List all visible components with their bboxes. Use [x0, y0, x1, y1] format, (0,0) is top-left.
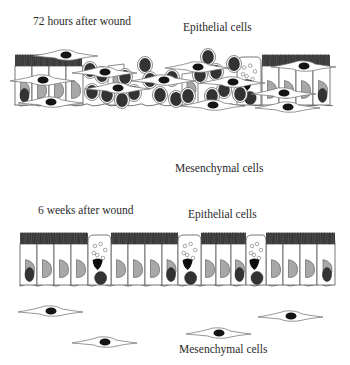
secretory-vesicle	[245, 74, 249, 78]
basal-dark-nucleus	[25, 268, 34, 282]
basal-dark-nucleus	[318, 88, 327, 102]
mesenchymal-nucleus	[61, 51, 72, 58]
columnar-cell	[300, 244, 317, 285]
proliferating-cell	[85, 84, 100, 101]
mesenchymal-nucleus	[208, 101, 219, 108]
cilia	[20, 232, 335, 244]
columnar-cell	[313, 66, 330, 105]
cilia-band	[266, 232, 335, 244]
basal-dark-nucleus	[95, 272, 107, 285]
mesenchymal-nucleus	[100, 68, 111, 75]
columnar-cells	[20, 244, 335, 285]
mesenchymal-cell	[186, 328, 251, 338]
columnar-cell	[128, 244, 145, 285]
secretory-vesicle	[99, 242, 103, 246]
basal-dark-nucleus	[20, 88, 29, 102]
secretory-vesicle	[241, 72, 245, 76]
secretory-vesicle	[248, 64, 252, 68]
proliferating-cell	[227, 56, 242, 73]
diagram-artwork	[0, 0, 350, 365]
panel-72h-epithelial-label: Epithelial cells	[183, 22, 252, 34]
panel-6w-epithelial-label: Epithelial cells	[188, 209, 257, 221]
basal-dark-nucleus	[251, 272, 263, 285]
mesenchymal-nucleus	[38, 76, 49, 83]
secretory-vesicle	[103, 248, 107, 252]
secretory-vesicle	[182, 251, 186, 255]
secretory-vesicle	[185, 253, 189, 257]
proliferating-cell	[138, 57, 153, 74]
basal-dark-nucleus	[323, 268, 332, 282]
mesenchymal-nucleus	[100, 338, 111, 345]
dark-nucleus	[170, 92, 182, 106]
mesenchymal-nucleus	[113, 84, 124, 91]
dark-nucleus	[228, 57, 240, 71]
proliferating-cell	[181, 88, 196, 105]
secretory-vesicle	[101, 256, 105, 260]
panel-72h-time-label: 72 hours after wound	[33, 16, 131, 28]
secretory-vesicle	[183, 244, 187, 248]
mesenchymal-nucleus	[228, 78, 239, 85]
columnar-cell	[145, 244, 162, 285]
panel-6w-time-label: 6 weeks after wound	[38, 205, 133, 217]
columnar-cell	[266, 244, 283, 285]
mesenchymal-cells	[18, 306, 323, 347]
secretory-vesicle	[250, 244, 254, 248]
secretory-vesicle	[193, 248, 197, 252]
dark-nucleus	[116, 93, 128, 107]
panel-6w	[18, 232, 335, 347]
mesenchymal-nucleus	[193, 63, 204, 70]
proliferating-cell	[115, 92, 130, 109]
cilia-band	[201, 232, 246, 244]
secretory-vesicle	[189, 242, 193, 246]
columnar-cell	[37, 244, 54, 285]
columnar-cell	[54, 244, 71, 285]
columnar-cell	[15, 66, 32, 105]
mesenchymal-nucleus	[214, 329, 225, 336]
columnar-cell	[283, 244, 300, 285]
columnar-cell	[231, 244, 246, 285]
secretory-vesicle	[259, 248, 263, 252]
panel-72h-mesenchymal-label: Mesenchymal cells	[175, 163, 263, 175]
secretory-vesicle	[191, 256, 195, 260]
columnar-cell	[296, 66, 313, 105]
columnar-cell	[162, 244, 178, 285]
goblet-cell	[246, 235, 266, 285]
mesenchymal-nucleus	[46, 307, 57, 314]
columnar-cell	[262, 66, 279, 105]
dark-nucleus	[234, 87, 246, 101]
cilia-band	[20, 232, 88, 244]
proliferating-cell	[233, 86, 248, 103]
secretory-vesicle	[95, 253, 99, 257]
mesenchymal-nucleus	[286, 312, 297, 319]
columnar-cell	[216, 244, 231, 285]
columnar-cell	[317, 244, 335, 285]
mesenchymal-nucleus	[283, 103, 294, 110]
dark-nucleus	[182, 89, 194, 103]
columnar-cell	[111, 244, 128, 285]
secretory-vesicle	[255, 242, 259, 246]
dark-nucleus	[154, 88, 166, 102]
mesenchymal-nucleus	[46, 98, 57, 105]
wound-healing-diagram: 72 hours after wound Epithelial cells Me…	[0, 0, 350, 365]
dark-nucleus	[202, 50, 214, 64]
mesenchymal-cell	[18, 306, 83, 316]
mesenchymal-cell	[72, 337, 137, 347]
basal-dark-nucleus	[235, 268, 244, 282]
panel-72h	[10, 49, 336, 113]
secretory-vesicle	[92, 251, 96, 255]
cilia-band	[111, 232, 178, 244]
panel-6w-mesenchymal-label: Mesenchymal cells	[179, 344, 267, 356]
secretory-vesicle	[93, 244, 97, 248]
basal-dark-nucleus	[185, 272, 197, 285]
goblet-cell	[88, 235, 111, 285]
secretory-vesicle	[253, 70, 257, 74]
columnar-cell	[20, 244, 37, 285]
mesenchymal-nucleus	[159, 76, 170, 83]
secretory-vesicle	[242, 66, 246, 70]
secretory-vesicle	[249, 251, 253, 255]
columnar-cell	[201, 244, 216, 285]
basal-dark-nucleus	[167, 268, 176, 282]
mesenchymal-nucleus	[279, 89, 290, 96]
dark-nucleus	[139, 58, 151, 72]
mesenchymal-cell	[258, 311, 323, 321]
